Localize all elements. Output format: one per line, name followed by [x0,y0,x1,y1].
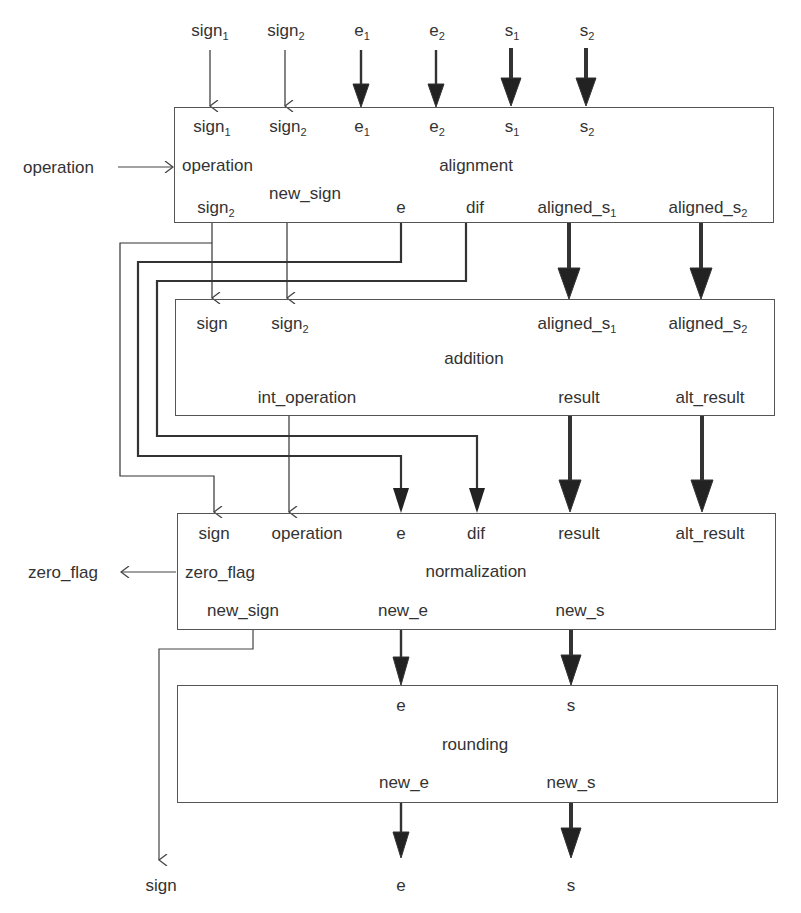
normalization-in-e: e [396,525,405,542]
normalization-in-dif: dif [467,525,485,542]
alignment-out-aligned-s2: aligned_s2 [669,199,748,219]
normalization-title: normalization [425,563,526,580]
input-label-e1: e1 [354,22,370,42]
rounding-out-new-e: new_e [379,774,429,791]
alignment-out-e: e [396,199,405,216]
rounding-in-s: s [567,697,576,714]
final-output-e: e [396,877,405,894]
alignment-out-dif: dif [466,199,484,216]
alignment-in-sign2: sign2 [269,118,306,138]
normalization-in-operation: operation [272,525,343,542]
alignment-out-sign2: sign2 [197,199,234,219]
normalization-out-zero-flag: zero_flag [185,564,255,581]
normalization-out-new-e: new_e [378,602,428,619]
rounding-out-new-s: new_s [546,774,595,791]
alignment-in-e2: e2 [429,118,445,138]
input-label-s2: s2 [580,22,595,42]
alignment-in-s2: s2 [580,118,595,138]
addition-in-aligned-s1: aligned_s1 [538,315,617,335]
rounding-in-e: e [396,697,405,714]
normalization-in-sign: sign [198,525,229,542]
addition-out-int-operation: int_operation [258,389,356,406]
rounding-title: rounding [442,736,508,753]
addition-title: addition [444,350,504,367]
input-label-e2: e2 [429,22,445,42]
addition-in-aligned-s2: aligned_s2 [669,315,748,335]
input-label-sign1: sign1 [191,22,228,42]
final-output-sign: sign [145,877,176,894]
alignment-in-sign1: sign1 [193,118,230,138]
normalization-in-alt-result: alt_result [676,525,745,542]
alignment-in-operation: operation [182,157,253,174]
addition-to-normalization-wires [289,415,713,512]
alignment-out-new-sign: new_sign [269,185,341,202]
input-wires-top [210,48,596,107]
alignment-title: alignment [439,157,513,174]
zero-flag-output-label: zero_flag [28,564,98,581]
addition-out-result: result [558,389,600,406]
operation-input-label: operation [23,159,94,176]
normalization-out-new-sign: new_sign [207,602,279,619]
addition-out-alt-result: alt_result [676,389,745,406]
input-label-sign2: sign2 [267,22,304,42]
final-output-s: s [567,877,576,894]
alignment-to-addition-wires [212,222,712,299]
alignment-in-s1: s1 [505,118,520,138]
normalization-to-rounding-wires [393,630,581,685]
alignment-in-e1: e1 [354,118,370,138]
addition-in-sign: sign [196,315,227,332]
input-label-s1: s1 [505,22,520,42]
normalization-out-new-s: new_s [555,602,604,619]
rounding-output-wires [393,802,581,858]
alignment-out-aligned-s1: aligned_s1 [538,199,617,219]
normalization-in-result: result [558,525,600,542]
addition-in-sign2: sign2 [271,315,308,335]
